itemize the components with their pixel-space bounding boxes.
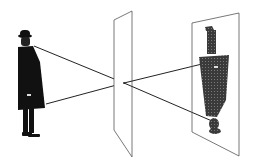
inverted-coat — [199, 55, 229, 117]
hat-crown — [20, 30, 30, 37]
head — [21, 37, 30, 46]
pinhole-plane — [114, 11, 132, 157]
inverted-legs — [207, 30, 216, 54]
leg-left — [23, 108, 28, 133]
ray-bottom-incoming — [46, 83, 124, 104]
incoming-rays — [34, 46, 124, 104]
hand — [27, 94, 31, 96]
ray-bottom-outgoing — [124, 64, 202, 83]
diagram-svg — [0, 0, 253, 168]
pinhole-diagram — [0, 0, 253, 168]
inverted-hat — [209, 128, 221, 134]
ray-top-outgoing — [124, 83, 212, 121]
ray-top-incoming — [34, 46, 124, 83]
shoe-right — [28, 134, 40, 137]
outgoing-rays — [124, 64, 212, 121]
coat — [18, 46, 45, 110]
inverted-hand — [214, 66, 218, 68]
leg-right — [29, 108, 34, 133]
observer-figure — [18, 30, 45, 137]
